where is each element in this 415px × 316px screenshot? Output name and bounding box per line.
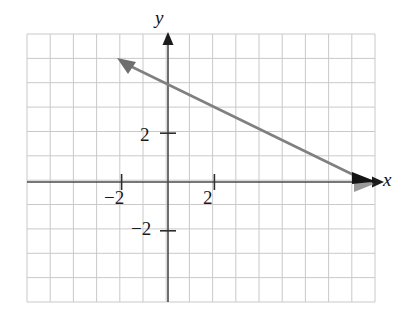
grid-lines	[27, 34, 375, 302]
y-tick-label-negative-2: −2	[131, 219, 151, 238]
y-tick-label-positive-2: 2	[140, 125, 150, 144]
x-tick-label-positive-2: 2	[203, 188, 213, 207]
y-axis	[163, 32, 174, 302]
x-axis-label: x	[383, 170, 391, 189]
plotted-line	[117, 58, 376, 192]
y-axis-label: y	[155, 8, 163, 27]
graph-figure: y x −2 2 2 −2	[0, 0, 415, 316]
x-tick-label-negative-2: −2	[104, 188, 124, 207]
x-axis	[27, 177, 384, 188]
coordinate-plane	[0, 0, 415, 316]
